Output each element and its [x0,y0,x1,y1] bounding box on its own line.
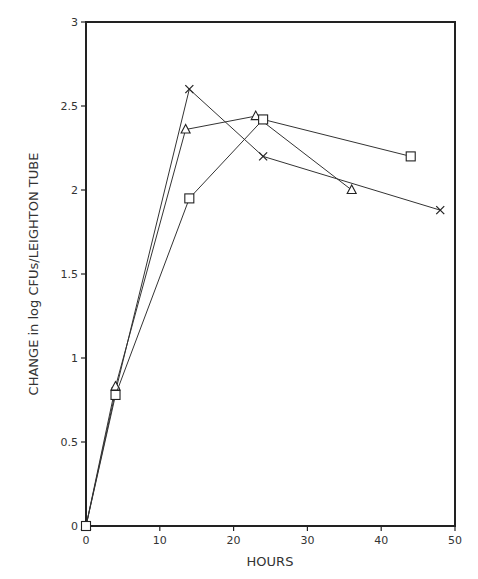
y-tick-label: 2 [71,184,78,197]
y-axis-title: CHANGE in log CFUs/LEIGHTON TUBE [26,153,41,396]
plot-frame [86,22,455,526]
series-layer [82,85,445,530]
y-tick-label: 2.5 [61,100,79,113]
x-axis-title: HOURS [247,554,294,569]
cross-marker [436,206,444,214]
square-marker [82,522,91,531]
x-tick-label: 30 [300,534,314,547]
series-triangle [82,111,357,529]
y-axis: 00.511.522.53 [61,16,87,533]
series-cross [82,85,444,530]
y-tick-label: 0 [71,520,78,533]
x-axis: 01020304050 [83,526,463,547]
triangle-marker [347,185,356,194]
x-tick-label: 20 [227,534,241,547]
cross-marker [185,85,193,93]
square-marker [259,115,268,124]
square-marker [185,194,194,203]
y-tick-label: 3 [71,16,78,29]
series-square [82,115,416,531]
line-chart: 00.511.522.53 01020304050 HOURS CHANGE i… [0,0,478,579]
x-tick-label: 40 [374,534,388,547]
x-tick-label: 50 [448,534,462,547]
cross-marker [259,152,267,160]
x-tick-label: 0 [83,534,90,547]
x-tick-label: 10 [153,534,167,547]
y-tick-label: 1.5 [61,268,79,281]
y-tick-label: 0.5 [61,436,79,449]
square-marker [111,390,120,399]
plot-border [86,22,455,526]
square-marker [406,152,415,161]
series-line [86,89,440,526]
series-line [86,116,352,526]
y-tick-label: 1 [71,352,78,365]
series-line [86,119,411,526]
